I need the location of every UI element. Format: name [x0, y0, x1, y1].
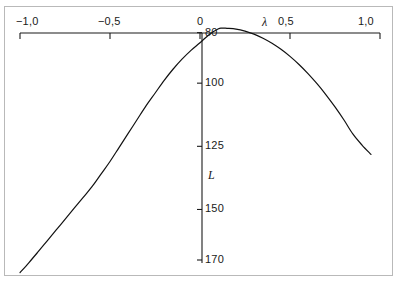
y-axis — [197, 33, 202, 263]
x-axis-title: λ — [262, 15, 267, 30]
y-tick-label: 170 — [205, 253, 224, 265]
x-tick-label: −1,0 — [16, 15, 39, 27]
x-tick-label: 1,0 — [358, 15, 374, 27]
x-tick-label: 0,5 — [278, 15, 294, 27]
x-axis-ticks — [20, 33, 380, 39]
x-tick-label: 0 — [197, 15, 203, 27]
y-axis-title: L — [208, 168, 215, 183]
y-tick-label: 100 — [205, 76, 224, 88]
y-tick-label: 150 — [205, 202, 224, 214]
y-axis-ticks — [197, 33, 202, 260]
figure-container: −1,0−0,500,51,0 80100125150170 λ L — [0, 0, 399, 282]
x-tick-label: −0,5 — [98, 15, 121, 27]
y-tick-label: 80 — [205, 26, 218, 38]
x-axis — [20, 33, 380, 39]
data-curve — [20, 28, 371, 273]
plot-area — [0, 0, 399, 282]
y-tick-label: 125 — [205, 139, 224, 151]
